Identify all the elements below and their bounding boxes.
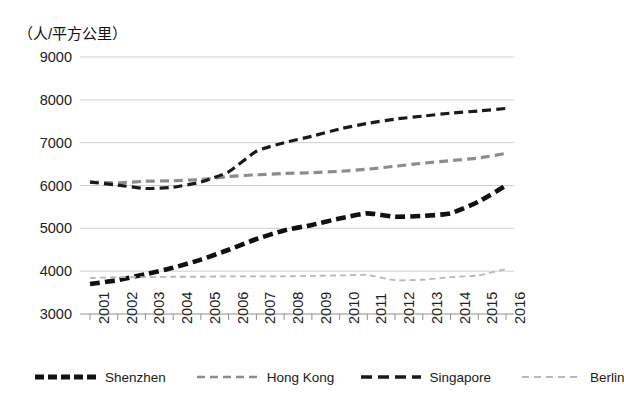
x-tick-label: 2003: [151, 292, 167, 324]
x-tick-label: 2005: [207, 292, 223, 324]
legend-swatch: [360, 371, 422, 383]
x-tick-label: 2004: [179, 292, 195, 324]
legend-swatch: [521, 371, 583, 383]
x-tick-label: 2007: [262, 292, 278, 324]
series-line-shenzhen: [90, 186, 506, 285]
x-tick-label: 2011: [373, 293, 389, 324]
x-tick-label: 2016: [512, 292, 528, 324]
legend-item-shenzhen[interactable]: Shenzhen: [34, 370, 166, 385]
legend-swatch: [34, 371, 98, 383]
legend-item-hong-kong[interactable]: Hong Kong: [196, 370, 335, 385]
legend-item-singapore[interactable]: Singapore: [360, 370, 491, 385]
x-tick-label: 2006: [235, 292, 251, 324]
data-series-layer: [90, 108, 506, 284]
x-tick-label: 2008: [290, 292, 306, 324]
series-line-hong-kong: [90, 153, 506, 183]
x-tick-label: 2010: [346, 292, 362, 324]
x-tick-label: 2013: [429, 292, 445, 324]
legend-label: Shenzhen: [105, 370, 166, 385]
x-tick-label: 2012: [401, 292, 417, 324]
x-tick-label: 2009: [318, 292, 334, 324]
series-line-singapore: [90, 108, 506, 188]
chart-legend: ShenzhenHong KongSingaporeBerlin: [34, 366, 524, 388]
x-tick-label: 2015: [484, 292, 500, 324]
x-tick-label: 2001: [96, 292, 112, 324]
gridlines: [80, 57, 514, 271]
legend-item-berlin[interactable]: Berlin: [521, 370, 624, 385]
legend-label: Hong Kong: [267, 370, 335, 385]
legend-swatch: [196, 371, 260, 383]
x-tick-label: 2002: [124, 292, 140, 324]
legend-label: Berlin: [590, 370, 624, 385]
legend-label: Singapore: [429, 370, 491, 385]
x-tick-label: 2014: [457, 292, 473, 324]
